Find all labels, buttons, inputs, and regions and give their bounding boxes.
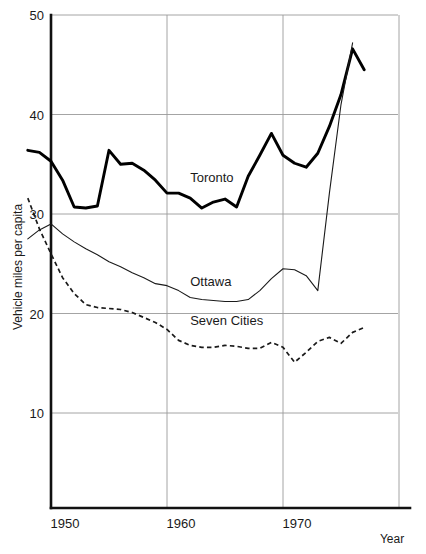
series-label-toronto: Toronto (190, 170, 233, 185)
series-label-seven-cities: Seven Cities (190, 313, 263, 328)
y-tick-label-20: 20 (30, 307, 44, 322)
axis-lines-group (51, 15, 410, 508)
tick-labels-group: 1020304050195019601970 (30, 8, 312, 531)
series-annotations-group: TorontoOttawaSeven Cities (190, 170, 263, 328)
chart-page: 1020304050195019601970 TorontoOttawaSeve… (0, 0, 426, 554)
gridlines-group (51, 15, 399, 508)
y-tick-label-10: 10 (30, 406, 44, 421)
x-axis-title: Year (380, 532, 404, 546)
x-tick-label-1960: 1960 (167, 516, 196, 531)
y-axis-title: Vehicle miles per capita (11, 204, 25, 330)
x-tick-label-1950: 1950 (51, 516, 80, 531)
line-chart: 1020304050195019601970 TorontoOttawaSeve… (0, 0, 426, 554)
x-tick-label-1970: 1970 (283, 516, 312, 531)
y-tick-label-40: 40 (30, 108, 44, 123)
series-label-ottawa: Ottawa (190, 274, 232, 289)
y-tick-label-30: 30 (30, 207, 44, 222)
y-tick-label-50: 50 (30, 8, 44, 23)
